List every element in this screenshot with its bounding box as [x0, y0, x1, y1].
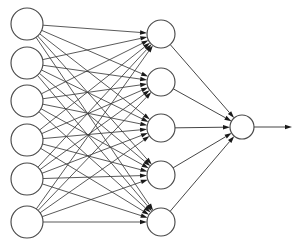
- input-node-3[interactable]: [11, 85, 43, 117]
- hidden-node-4[interactable]: [147, 161, 175, 189]
- hidden-node-3[interactable]: [147, 114, 175, 142]
- hidden-node-5[interactable]: [147, 208, 175, 236]
- input-node-4[interactable]: [11, 124, 43, 156]
- hidden-node-2[interactable]: [147, 68, 175, 96]
- output-node-1[interactable]: [230, 115, 254, 139]
- input-node-6[interactable]: [11, 206, 43, 238]
- input-node-5[interactable]: [11, 163, 43, 195]
- input-node-1[interactable]: [11, 8, 43, 40]
- input-node-2[interactable]: [11, 47, 43, 79]
- output-layer-nodes: [230, 115, 254, 139]
- neural-network-canvas: [0, 0, 304, 250]
- hidden-node-1[interactable]: [147, 20, 175, 48]
- edge-h3-o1: [175, 127, 223, 128]
- neural-network-diagram: [0, 0, 304, 250]
